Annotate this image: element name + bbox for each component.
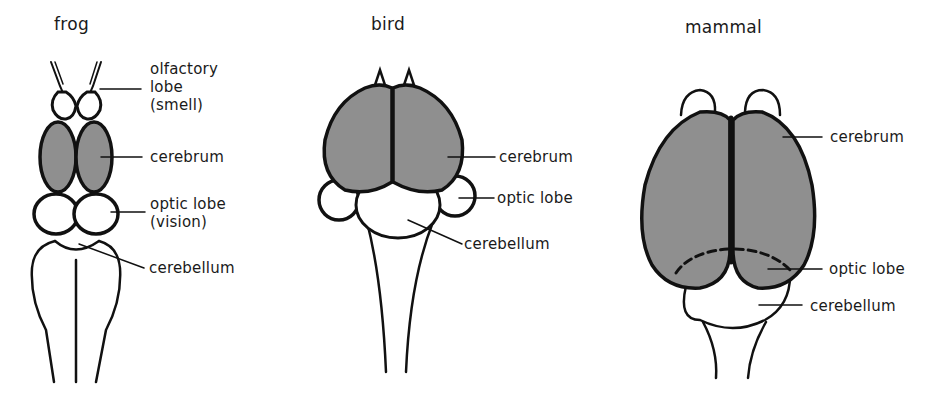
bird-brain-drawing <box>319 70 495 372</box>
frog-olfactory-lobe-label: olfactory lobe (smell) <box>150 60 218 114</box>
frog-brain-drawing <box>32 62 145 382</box>
frog-title: frog <box>54 14 89 34</box>
mammal-brain-drawing <box>642 90 822 378</box>
mammal-cerebellum-label: cerebellum <box>810 297 896 315</box>
frog-cerebrum-label: cerebrum <box>150 148 224 166</box>
bird-cerebrum-label: cerebrum <box>499 148 573 166</box>
mammal-title: mammal <box>685 17 762 37</box>
bird-optic-lobe-label: optic lobe <box>497 189 573 207</box>
mammal-optic-lobe-label: optic lobe <box>829 260 905 278</box>
bird-cerebellum-label: cerebellum <box>464 235 550 253</box>
frog-cerebellum-label: cerebellum <box>149 259 235 277</box>
mammal-cerebrum-label: cerebrum <box>830 128 904 146</box>
frog-optic-lobe-label: optic lobe (vision) <box>150 195 226 231</box>
bird-title: bird <box>371 14 405 34</box>
brain-comparison-diagram: frog olfactory lobe (smell) cerebrum opt… <box>0 0 950 397</box>
brain-drawings <box>0 0 950 397</box>
